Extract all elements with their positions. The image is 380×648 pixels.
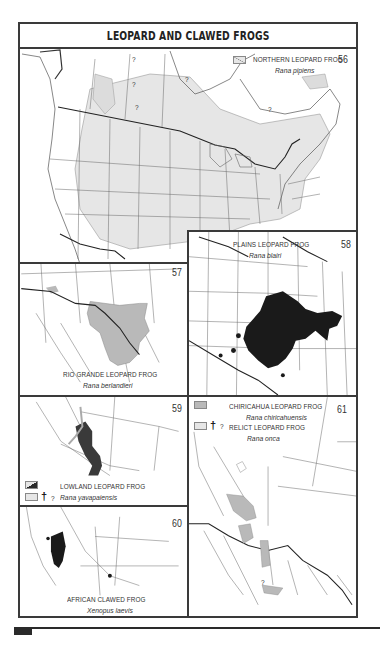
map-number: 60: [172, 517, 182, 529]
range-rio-grande-leopard: [87, 301, 149, 365]
question-mark: ?: [261, 580, 265, 587]
common-name: RIO GRANDE LEOPARD FROG: [63, 370, 157, 379]
common-name: CHIRICAHUA LEOPARD FROG: [229, 402, 322, 411]
question-mark: ?: [51, 496, 55, 503]
common-name: AFRICAN CLAWED FROG: [67, 595, 146, 604]
question-mark: ?: [132, 57, 136, 64]
map-panel-58: PLAINS LEOPARD FROG Rana blairi 58: [187, 230, 356, 395]
map-panel-57: 57 RIO GRANDE LEOPARD FROG Rana berlandi…: [20, 262, 187, 395]
page-tab-marker: [14, 627, 32, 635]
question-mark: ?: [220, 424, 224, 431]
title-bar: LEOPARD AND CLAWED FROGS: [20, 24, 356, 49]
map-panel-61: CHIRICAHUA LEOPARD FROG Rana chiricahuen…: [187, 395, 356, 616]
legend-swatch-hatched: [233, 56, 246, 64]
map-number: 61: [337, 403, 347, 415]
map-number: 57: [172, 266, 182, 278]
map-panel-60: 60 AFRICAN CLAWED FROG Xenopus laevis: [20, 505, 187, 616]
scientific-name: Rana chiricahuensis: [246, 413, 307, 422]
extinct-dagger-icon: †: [210, 420, 216, 431]
common-name: LOWLAND LEOPARD FROG: [60, 482, 145, 491]
scientific-name: Rana blairi: [249, 251, 281, 260]
scientific-name: Rana pipiens: [275, 66, 314, 75]
scientific-name: Rana berlandieri: [83, 381, 133, 390]
legend-swatch-light: [194, 422, 207, 430]
page-rule: [14, 627, 380, 629]
scientific-name: Xenopus laevis: [87, 606, 133, 615]
legend-swatch-mid-gray: [194, 401, 207, 409]
question-mark: ?: [185, 77, 189, 84]
common-name: NORTHERN LEOPARD FROG: [253, 55, 343, 64]
question-mark: ?: [132, 82, 136, 89]
page-title: LEOPARD AND CLAWED FROGS: [107, 28, 270, 43]
common-name: RELICT LEOPARD FROG: [229, 423, 305, 432]
legend-swatch-black-diagonal: [25, 481, 38, 489]
range-chiricahua-leopard: [227, 494, 257, 521]
extinct-dagger-icon: †: [41, 491, 47, 502]
legend-swatch-light: [25, 493, 38, 501]
map-number: 56: [338, 53, 348, 65]
map-number: 59: [172, 402, 182, 414]
figure-frame: LEOPARD AND CLAWED FROGS: [18, 22, 358, 618]
question-mark: ?: [135, 105, 139, 112]
range-plains-leopard: [243, 291, 342, 368]
common-name: PLAINS LEOPARD FROG: [233, 240, 309, 249]
question-mark: ?: [268, 107, 272, 114]
map-number: 58: [341, 238, 351, 250]
scientific-name: Rana yavapaiensis: [60, 493, 117, 502]
range-african-clawed: [51, 532, 66, 568]
scientific-name: Rana onca: [247, 434, 280, 443]
map-panel-59: 59 LOWLAND LEOPARD FROG † ? Rana yavapai…: [20, 395, 187, 505]
